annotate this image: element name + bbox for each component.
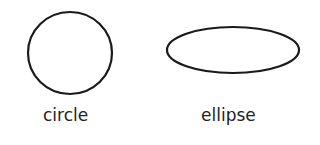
- circle-label: circle: [43, 107, 88, 124]
- ellipse-label: ellipse: [201, 107, 256, 124]
- ellipse-shape: [167, 27, 299, 73]
- circle-shape: [28, 12, 112, 94]
